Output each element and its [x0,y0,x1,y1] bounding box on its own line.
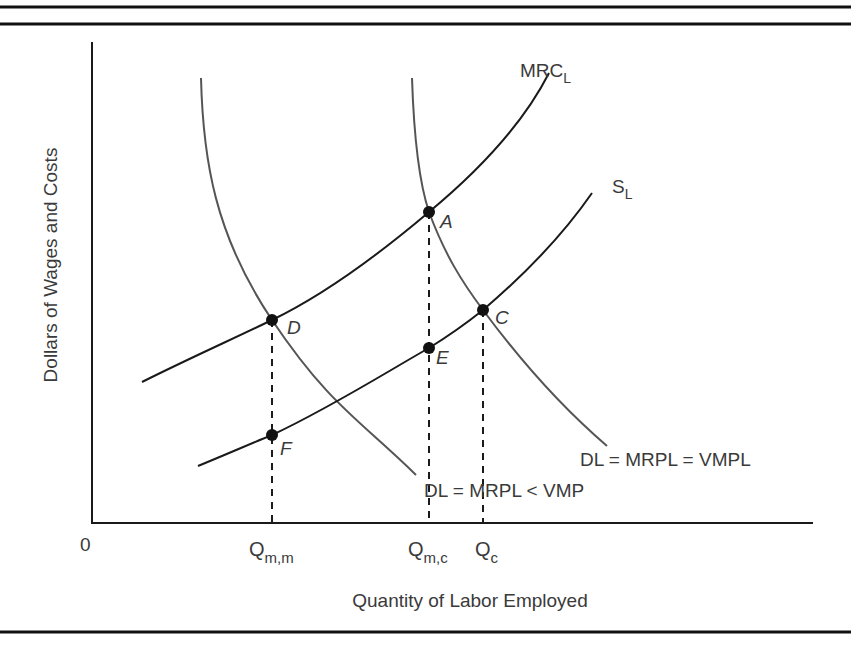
y-axis-title: Dollars of Wages and Costs [40,148,61,383]
point-f [266,429,278,441]
point-d [266,314,278,326]
demand-monopsony-curve [201,78,416,475]
supply-curve [198,193,592,466]
page-rules [0,7,851,632]
point-a-label: A [439,211,453,232]
mrc-label: MRCL [520,60,571,86]
point-a [423,206,435,218]
tick-qmm: Qm,m [249,538,294,566]
point-c [477,304,489,316]
origin-label: 0 [80,534,91,555]
point-f-label: F [280,438,293,459]
point-e-label: E [436,347,449,368]
tick-qmc: Qm,c [408,538,448,566]
point-d-label: D [287,317,301,338]
drop-lines [272,212,483,523]
supply-label: SL [612,176,633,202]
point-e [423,342,435,354]
tick-qc: Qc [475,538,499,566]
demand-monopsony-label: DL = MRPL < VMP [424,480,584,501]
x-axis-title: Quantity of Labor Employed [352,590,588,611]
point-c-label: C [495,307,509,328]
demand-competitive-label: DL = MRPL = VMPL [580,449,751,470]
diagram-canvas: A C D E F MRCL SL DL = MRPL = VMPL DL = … [0,0,851,649]
